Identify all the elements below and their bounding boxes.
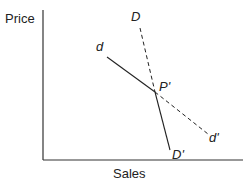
curve-d-end-label: d' xyxy=(209,131,219,144)
curve-D-end-label: D' xyxy=(172,148,184,161)
intersection-label: P' xyxy=(159,80,170,93)
curve-d-start-label: d xyxy=(96,40,103,53)
curve-D-start-label: D xyxy=(131,10,140,23)
curve-D-solid-segment xyxy=(155,92,170,150)
diagram-canvas xyxy=(0,0,251,183)
x-axis-label: Sales xyxy=(113,167,146,180)
y-axis-label: Price xyxy=(5,12,35,25)
curve-d-dashed-segment xyxy=(155,92,208,134)
